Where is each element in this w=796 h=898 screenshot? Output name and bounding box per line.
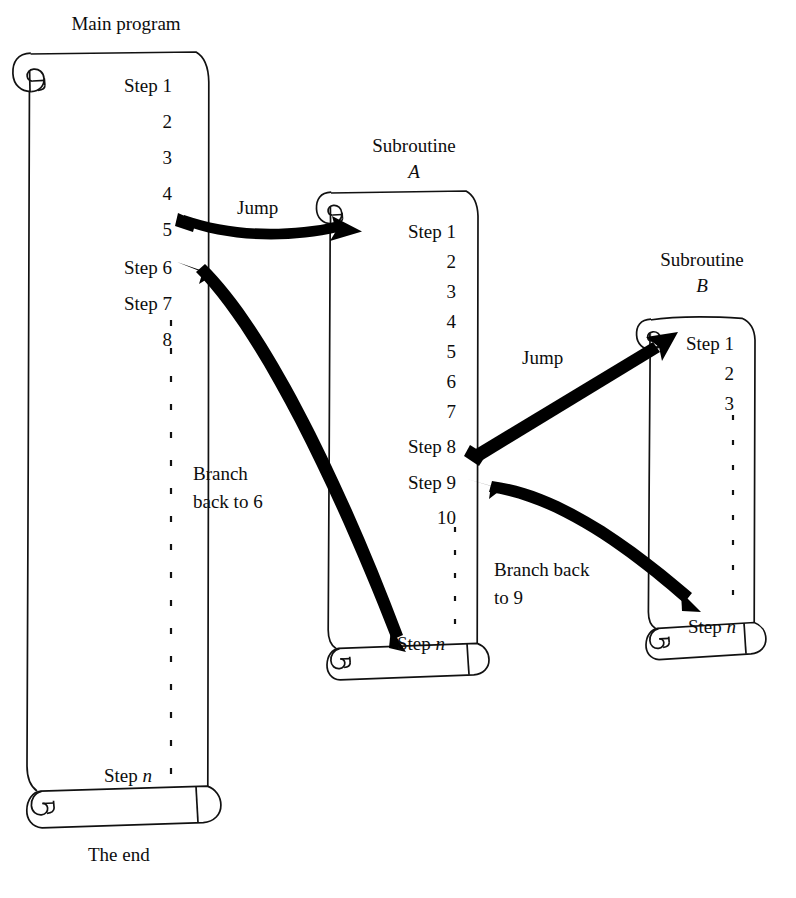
subroutine-a-step-1: Step 1 xyxy=(348,222,456,241)
main-program-step-4: 4 xyxy=(60,184,172,203)
subroutine-a-title: Subroutine xyxy=(344,136,484,155)
main-program-end-label: The end xyxy=(88,845,150,864)
arrow-label-branch-a-to-main: Branch back to 6 xyxy=(193,460,263,515)
subroutine-b-title-text: Subroutine xyxy=(660,249,743,270)
main-program-title: Main program xyxy=(36,14,216,33)
main-program-step-7: Step 7 xyxy=(60,294,172,313)
arrow-label-jump-a-to-b: Jump xyxy=(522,348,563,367)
subroutine-flow-figure: Main program Step 1 2 3 4 5 Step 6 Step … xyxy=(0,0,796,898)
subroutine-b-title-letter: B xyxy=(632,276,772,295)
subroutine-a-step-8: Step 8 xyxy=(348,437,456,456)
subroutine-a-step-4: 4 xyxy=(348,312,456,331)
subroutine-a-step-6: 6 xyxy=(348,372,456,391)
subroutine-b-title: Subroutine xyxy=(632,250,772,269)
subroutine-a-step-7: 7 xyxy=(348,402,456,421)
subroutine-a-step-2: 2 xyxy=(348,252,456,271)
subroutine-a-letter-text: A xyxy=(408,161,420,182)
subroutine-a-step-3: 3 xyxy=(348,282,456,301)
subroutine-b-step-2: 2 xyxy=(630,364,734,383)
arrow-label-jump-main-to-a: Jump xyxy=(237,198,278,217)
main-program-step-1: Step 1 xyxy=(60,76,172,95)
subroutine-b-step-n: Step n xyxy=(688,617,736,636)
subroutine-a-step-n-text: Step n xyxy=(397,633,445,654)
subroutine-b-step-n-text: Step n xyxy=(688,616,736,637)
subroutine-b-step-1: Step 1 xyxy=(630,334,734,353)
subroutine-a-step-n: Step n xyxy=(397,634,445,653)
main-program-step-n: Step n xyxy=(104,766,152,785)
subroutine-a-step-5: 5 xyxy=(348,342,456,361)
main-program-step-5: 5 xyxy=(60,220,172,239)
subroutine-a-title-text: Subroutine xyxy=(372,135,455,156)
main-program-bottom-roll xyxy=(27,786,221,828)
main-program-scroll-shape xyxy=(13,52,221,828)
subroutine-b-step-3: 3 xyxy=(630,394,734,413)
main-program-step-3: 3 xyxy=(60,148,172,167)
subroutine-a-step-9: Step 9 xyxy=(348,473,456,492)
subroutine-a-title-letter: A xyxy=(344,162,484,181)
main-program-step-2: 2 xyxy=(60,112,172,131)
main-program-step-n-text: Step n xyxy=(104,765,152,786)
main-program-step-6: Step 6 xyxy=(60,258,172,277)
arrow-label-branch-b-to-a: Branch back to 9 xyxy=(494,556,589,611)
main-program-title-text: Main program xyxy=(71,13,180,34)
subroutine-a-step-10: 10 xyxy=(348,508,456,527)
subroutine-b-letter-text: B xyxy=(696,275,708,296)
main-program-step-8: 8 xyxy=(60,330,172,349)
